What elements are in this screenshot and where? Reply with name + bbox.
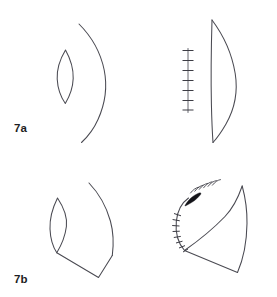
panel-label-7a: 7a xyxy=(14,122,28,134)
panel-label-7b: 7b xyxy=(14,273,28,285)
figure-drawing: 7a xyxy=(0,0,277,297)
figure-background xyxy=(0,0,277,297)
figure-container: 7a xyxy=(0,0,277,297)
